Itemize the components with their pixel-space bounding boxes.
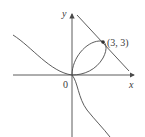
diagram-canvas: (3, 3) y x 0 <box>0 0 145 137</box>
tangent-point <box>101 40 105 44</box>
x-axis-label: x <box>128 79 134 90</box>
folium-branch-lower-right <box>72 75 110 137</box>
point-label: (3, 3) <box>107 37 129 49</box>
origin-label: 0 <box>63 79 68 90</box>
folium-branch-upper-left <box>13 35 72 75</box>
folium-loop <box>72 41 106 75</box>
folium-diagram: (3, 3) y x 0 <box>0 0 145 137</box>
y-axis-label: y <box>61 8 67 19</box>
